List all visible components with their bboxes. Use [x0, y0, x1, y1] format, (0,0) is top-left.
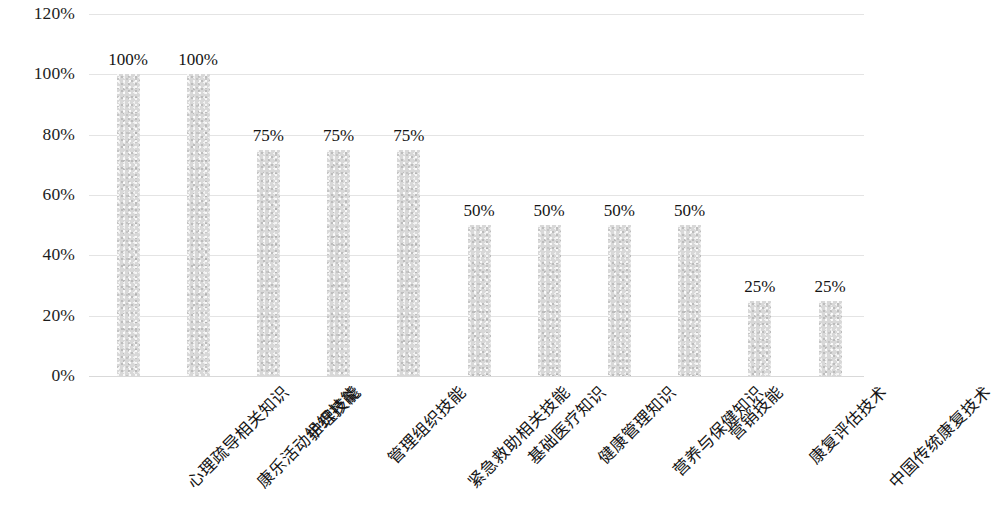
- bar[interactable]: [819, 301, 842, 376]
- bar-value-label: 50%: [589, 202, 649, 219]
- bar[interactable]: [538, 225, 561, 376]
- x-axis-category-label: 营养与保健知识: [670, 383, 766, 479]
- x-axis-category-label: 护理技能: [304, 383, 364, 443]
- bar[interactable]: [257, 150, 280, 376]
- y-axis-tick-label: 100%: [0, 65, 75, 83]
- bar-value-label: 50%: [519, 202, 579, 219]
- bar-value-label: 50%: [660, 202, 720, 219]
- y-axis-tick-label: 20%: [0, 307, 75, 325]
- bar-value-label: 75%: [238, 127, 298, 144]
- x-axis-category-label: 管理组织技能: [384, 383, 468, 467]
- bar[interactable]: [117, 74, 140, 376]
- bar[interactable]: [187, 74, 210, 376]
- y-axis-tick-label: 40%: [0, 246, 75, 264]
- y-axis: 0%20%40%60%80%100%120%: [0, 0, 82, 390]
- y-axis-tick-label: 80%: [0, 126, 75, 144]
- bar-value-label: 25%: [730, 278, 790, 295]
- bar-value-label: 25%: [800, 278, 860, 295]
- bar-value-label: 50%: [449, 202, 509, 219]
- bar[interactable]: [748, 301, 771, 376]
- x-axis-labels: 心理疏导相关知识康乐活动组织技能护理技能管理组织技能紧急救助相关技能基础医疗知识…: [0, 377, 864, 516]
- x-axis-category-label: 中国传统康复技术: [886, 383, 994, 491]
- y-axis-tick-label: 120%: [0, 5, 75, 23]
- y-axis-tick-label: 60%: [0, 186, 75, 204]
- bar-value-label: 100%: [168, 51, 228, 68]
- bar[interactable]: [397, 150, 420, 376]
- bar-value-label: 100%: [98, 51, 158, 68]
- bar[interactable]: [678, 225, 701, 376]
- x-axis-category-label: 康复评估技术: [806, 383, 890, 467]
- bar-value-label: 75%: [309, 127, 369, 144]
- bars-layer: 100%100%75%75%75%50%50%50%50%25%25%: [89, 0, 864, 377]
- bar[interactable]: [608, 225, 631, 376]
- bar-value-label: 75%: [379, 127, 439, 144]
- bar[interactable]: [327, 150, 350, 376]
- bar[interactable]: [468, 225, 491, 376]
